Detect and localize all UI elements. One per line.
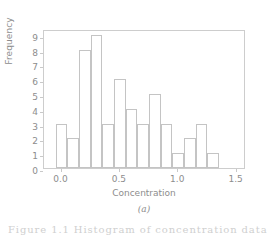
histogram-bar [196,124,208,168]
y-axis-ticks: 0123456789 [24,28,38,168]
histogram-bar [149,94,161,168]
histogram-bar [79,50,91,168]
histogram-bar [102,124,114,168]
y-tick-label: 0 [24,165,38,177]
histogram-bar [67,138,79,168]
figure-caption-clipped: Figure 1.1 Histogram of concentration da… [0,226,280,236]
y-tick-label: 8 [24,47,38,59]
x-tick-label: 0.5 [104,173,134,185]
y-tick-label: 4 [24,106,38,118]
figure-subcaption: (a) [43,204,245,214]
y-tick-label: 6 [24,76,38,88]
histogram-bar [207,153,219,168]
histogram-bar [184,138,196,168]
x-tick-label: 1.0 [162,173,192,185]
histogram-figure: Frequency 0123456789 0.00.51.01.5 Concen… [0,0,280,236]
y-tick-label: 3 [24,121,38,133]
histogram-bars [44,31,244,168]
y-tick-label: 9 [24,32,38,44]
x-tick-mark [177,169,178,172]
histogram-bar [114,79,126,168]
x-tick-mark [236,169,237,172]
y-tick-label: 2 [24,135,38,147]
plot-area [43,30,245,169]
histogram-bar [56,124,68,168]
y-tick-label: 7 [24,61,38,73]
y-tick-label: 5 [24,91,38,103]
x-tick-label: 1.5 [221,173,251,185]
x-axis-title: Concentration [43,188,245,198]
x-axis-ticks: 0.00.51.01.5 [43,169,245,189]
figure-caption-text: Figure 1.1 Histogram of concentration da… [8,226,280,235]
histogram-bar [137,124,149,168]
histogram-bar [172,153,184,168]
y-tick-label: 1 [24,150,38,162]
histogram-bar [91,35,103,168]
x-tick-mark [119,169,120,172]
x-tick-label: 0.0 [46,173,76,185]
y-axis-title: Frequency [2,0,16,86]
x-tick-mark [61,169,62,172]
histogram-bar [126,109,138,168]
histogram-bar [161,124,173,168]
